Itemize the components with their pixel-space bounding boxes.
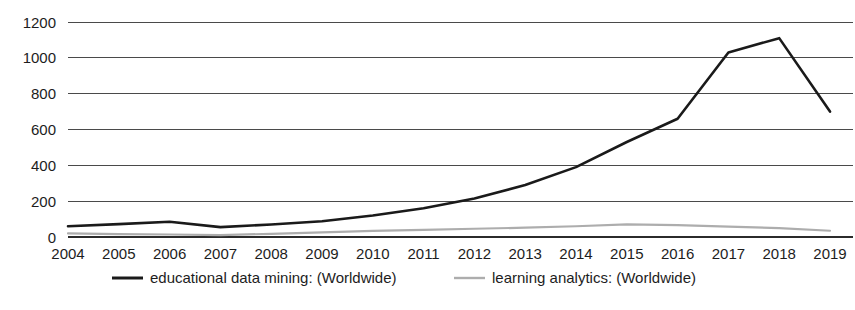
- x-tick-label: 2016: [661, 245, 694, 262]
- y-tick-label: 600: [31, 121, 56, 138]
- x-axis-tick-labels: 2004200520062007200820092010201120122013…: [51, 245, 846, 262]
- series-line-0: [68, 38, 830, 227]
- x-tick-label: 2018: [763, 245, 796, 262]
- x-tick-label: 2017: [712, 245, 745, 262]
- y-tick-label: 0: [48, 229, 56, 246]
- data-series: [68, 38, 830, 235]
- y-tick-label: 800: [31, 85, 56, 102]
- x-tick-label: 2006: [153, 245, 186, 262]
- y-tick-label: 1200: [23, 14, 56, 31]
- x-tick-label: 2004: [51, 245, 84, 262]
- x-tick-label: 2007: [204, 245, 237, 262]
- y-tick-label: 200: [31, 193, 56, 210]
- x-tick-label: 2015: [610, 245, 643, 262]
- x-tick-label: 2008: [255, 245, 288, 262]
- x-tick-label: 2014: [559, 245, 592, 262]
- chart-canvas: 020040060080010001200 200420052006200720…: [0, 0, 855, 310]
- legend-label-0: educational data mining: (Worldwide): [150, 269, 397, 286]
- line-chart: 020040060080010001200 200420052006200720…: [0, 0, 855, 310]
- legend-label-1: learning analytics: (Worldwide): [492, 269, 696, 286]
- y-axis-tick-labels: 020040060080010001200: [23, 14, 56, 246]
- x-tick-label: 2011: [407, 245, 439, 262]
- x-tick-label: 2005: [102, 245, 135, 262]
- x-tick-label: 2019: [813, 245, 846, 262]
- y-tick-label: 1000: [23, 49, 56, 66]
- series-line-1: [68, 224, 830, 235]
- x-tick-label: 2010: [356, 245, 389, 262]
- y-tick-label: 400: [31, 157, 56, 174]
- gridlines: [68, 22, 853, 237]
- x-tick-label: 2013: [509, 245, 542, 262]
- x-tick-label: 2009: [305, 245, 338, 262]
- x-tick-label: 2012: [458, 245, 491, 262]
- chart-legend: educational data mining: (Worldwide)lear…: [112, 269, 696, 286]
